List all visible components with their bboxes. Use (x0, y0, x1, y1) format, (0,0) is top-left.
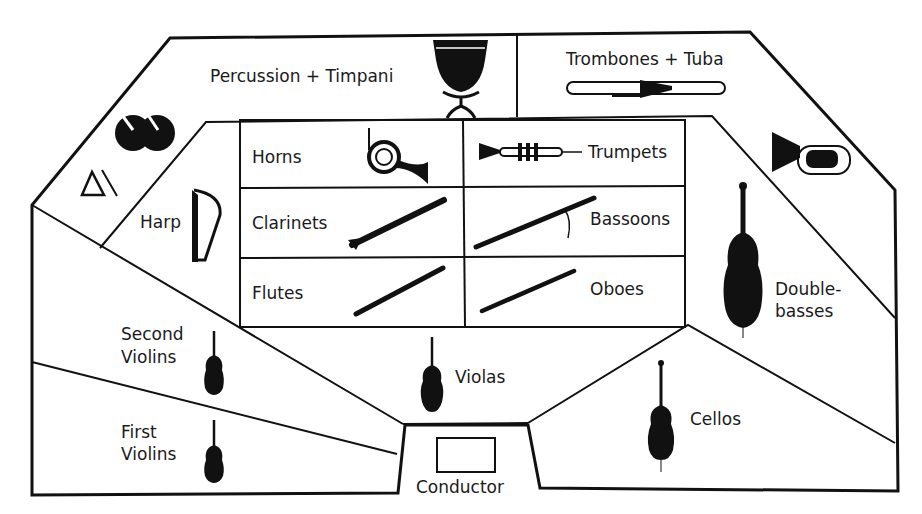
label-trombones-tuba: Trombones + Tuba (565, 49, 724, 69)
viola-icon (421, 337, 444, 412)
violin-icon (204, 420, 224, 483)
timpani-icon (433, 40, 488, 118)
label-oboes: Oboes (590, 279, 644, 299)
flute-icon (356, 268, 443, 314)
label-percussion: Percussion + Timpani (210, 66, 393, 86)
label-first-violins-2: Violins (121, 444, 177, 464)
cello-icon (648, 360, 674, 472)
orchestra-seating-diagram: Percussion + Timpani Trombones + Tuba Ha… (0, 0, 922, 514)
label-second-violins-2: Violins (121, 347, 177, 367)
label-clarinets: Clarinets (252, 213, 328, 233)
label-violas: Violas (455, 367, 506, 387)
label-conductor: Conductor (416, 477, 504, 497)
triangle-icon (82, 170, 117, 196)
label-trumpets: Trumpets (587, 142, 667, 162)
oboe-icon (482, 271, 574, 311)
conductor-podium (437, 438, 495, 472)
label-cellos: Cellos (690, 409, 741, 429)
french-horn-icon (369, 128, 428, 184)
label-harp: Harp (140, 212, 181, 232)
grid-row2 (240, 256, 685, 258)
divider-violas-bottom (403, 423, 528, 424)
bassoon-icon (476, 198, 594, 247)
trombone-icon (567, 80, 725, 98)
label-first-violins-1: First (121, 422, 157, 442)
grid-vertical (463, 120, 465, 327)
label-double-basses-2: basses (775, 301, 833, 321)
trumpet-icon (479, 143, 582, 161)
label-horns: Horns (252, 147, 302, 167)
grid-row1 (240, 186, 685, 188)
tuba-icon (772, 132, 850, 174)
violin-icon (204, 331, 224, 395)
label-second-violins-1: Second (121, 324, 184, 344)
label-flutes: Flutes (252, 283, 303, 303)
double-bass-icon (724, 182, 763, 338)
label-double-basses-1: Double- (775, 279, 841, 299)
harp-icon (192, 190, 220, 262)
clarinet-icon (348, 200, 444, 250)
cymbals-icon (115, 115, 175, 151)
label-bassoons: Bassoons (590, 209, 670, 229)
